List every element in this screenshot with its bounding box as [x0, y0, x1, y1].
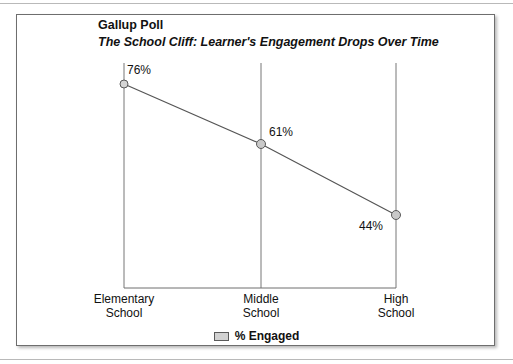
- data-point-middle[interactable]: [257, 140, 266, 149]
- data-point-elementary[interactable]: [120, 80, 128, 88]
- legend-swatch-icon: [214, 332, 229, 341]
- x-axis-label-elementary: Elementary School: [64, 292, 184, 320]
- x-axis-label-middle-line2: School: [201, 306, 321, 320]
- chart-legend: % Engaged: [17, 329, 496, 343]
- x-axis-label-elementary-line1: Elementary: [64, 292, 184, 306]
- x-axis-label-middle-line1: Middle: [201, 292, 321, 306]
- engagement-trend-line: [124, 84, 396, 215]
- chart-panel: Gallup Poll The School Cliff: Learner's …: [16, 14, 495, 346]
- data-label-high: 44%: [359, 219, 383, 233]
- bottom-divider: [0, 359, 513, 360]
- data-point-high[interactable]: [392, 211, 401, 220]
- plot-area: 76% 61% 44% Elementary School Middle Sch…: [17, 15, 496, 347]
- x-axis-label-high: High School: [336, 292, 456, 320]
- x-axis-label-elementary-line2: School: [64, 306, 184, 320]
- legend-label: % Engaged: [235, 329, 300, 343]
- x-axis-label-high-line1: High: [336, 292, 456, 306]
- top-divider: [0, 3, 513, 4]
- x-axis-label-high-line2: School: [336, 306, 456, 320]
- x-axis-label-middle: Middle School: [201, 292, 321, 320]
- data-label-middle: 61%: [269, 125, 293, 139]
- data-label-elementary: 76%: [127, 63, 151, 77]
